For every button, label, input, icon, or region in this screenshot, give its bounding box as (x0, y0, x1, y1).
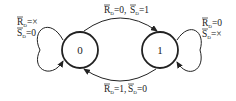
svg-text:RD=1,: RD=1, (104, 84, 126, 95)
transition-arc-1-to-0 (84, 69, 156, 81)
transition-label-0-to-1: RD=0, SD=1 (104, 5, 149, 16)
self-loop-label-1: RD=0 SD=× (202, 18, 222, 40)
state-diagram: 0 1 RD=0, SD=1 RD=1, SD=0 RD=× SD=0 RD=0… (0, 0, 236, 101)
state-1: 1 (142, 32, 178, 68)
svg-text:RD=×: RD=× (17, 17, 38, 28)
state-1-label: 1 (157, 44, 163, 56)
state-0: 0 (62, 32, 98, 68)
svg-text:SD=×: SD=× (202, 29, 222, 40)
svg-text:RD=0: RD=0 (202, 18, 222, 29)
svg-text:RD=0,: RD=0, (104, 5, 126, 16)
state-0-label: 0 (77, 44, 83, 56)
self-loop-1 (177, 30, 201, 72)
self-loop-0 (37, 27, 63, 71)
transition-arc-0-to-1 (84, 18, 157, 31)
svg-text:SD=0: SD=0 (128, 84, 147, 95)
svg-text:SD=1: SD=1 (130, 5, 149, 16)
svg-text:SD=0: SD=0 (17, 28, 36, 39)
self-loop-label-0: RD=× SD=0 (17, 17, 38, 39)
transition-label-1-to-0: RD=1, SD=0 (104, 84, 147, 95)
